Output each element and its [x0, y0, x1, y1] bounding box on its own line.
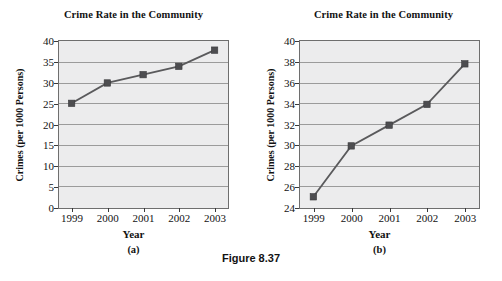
x-tick-mark	[465, 208, 466, 212]
data-series	[59, 41, 227, 207]
y-tick-mark	[54, 208, 58, 209]
y-tick-mark	[295, 83, 299, 84]
y-tick-mark	[295, 62, 299, 63]
y-tick-mark	[54, 166, 58, 167]
x-tick-labels-a: 19992000200120022003	[0, 212, 251, 226]
x-tick-label: 2002	[168, 212, 190, 224]
data-point-marker	[310, 194, 316, 200]
data-series	[300, 41, 478, 207]
data-point-marker	[140, 71, 146, 77]
x-tick-mark	[215, 208, 216, 212]
y-tick-mark	[295, 187, 299, 188]
y-tick-label: 30	[284, 139, 295, 151]
x-tick-mark	[108, 208, 109, 212]
y-tick-mark	[295, 125, 299, 126]
x-tick-label: 2003	[204, 212, 226, 224]
data-point-marker	[176, 63, 182, 69]
x-tick-label: 2001	[379, 212, 401, 224]
x-axis-label-a: Year	[0, 228, 251, 240]
plot-area-b	[299, 40, 480, 209]
y-tick-label: 32	[284, 119, 295, 131]
x-tick-label: 2000	[97, 212, 119, 224]
y-tick-label: 35	[43, 56, 54, 68]
x-tick-mark	[390, 208, 391, 212]
y-axis-label-a: Crimes (per 1000 Persons)	[14, 40, 30, 210]
data-point-marker	[462, 61, 468, 67]
x-tick-label: 2003	[454, 212, 476, 224]
x-tick-label: 2002	[416, 212, 438, 224]
y-tick-mark	[295, 41, 299, 42]
y-tick-mark	[54, 145, 58, 146]
x-tick-label: 1999	[61, 212, 83, 224]
x-tick-mark	[144, 208, 145, 212]
data-point-marker	[68, 100, 74, 106]
y-tick-mark	[54, 41, 58, 42]
figure-caption: Figure 8.37	[0, 252, 502, 264]
y-tick-mark	[295, 208, 299, 209]
y-tick-label: 25	[43, 98, 54, 110]
x-tick-mark	[72, 208, 73, 212]
figure-8-37: Crime Rate in the Community Crimes (per …	[0, 0, 502, 281]
y-tick-label: 40	[43, 35, 54, 47]
y-tick-label: 40	[284, 35, 295, 47]
chart-title-a: Crime Rate in the Community	[0, 9, 251, 20]
y-tick-label: 28	[284, 160, 295, 172]
data-point-marker	[424, 101, 430, 107]
y-tick-label: 26	[284, 181, 295, 193]
y-tick-mark	[295, 166, 299, 167]
chart-panel-b: Crime Rate in the Community Crimes (per …	[251, 0, 502, 248]
y-tick-label: 10	[43, 160, 54, 172]
y-axis-label-b: Crimes (per 1000 Persons)	[265, 40, 281, 210]
chart-title-b: Crime Rate in the Community	[251, 9, 502, 20]
y-tick-label: 34	[284, 98, 295, 110]
y-tick-label: 20	[43, 119, 54, 131]
y-tick-mark	[54, 187, 58, 188]
y-tick-label: 15	[43, 139, 54, 151]
y-tick-mark	[54, 104, 58, 105]
x-tick-mark	[314, 208, 315, 212]
chart-panel-a: Crime Rate in the Community Crimes (per …	[0, 0, 251, 248]
x-tick-label: 1999	[303, 212, 325, 224]
data-point-marker	[211, 47, 217, 53]
x-tick-mark	[352, 208, 353, 212]
x-tick-labels-b: 19992000200120022003	[251, 212, 502, 226]
x-tick-mark	[179, 208, 180, 212]
data-point-marker	[348, 143, 354, 149]
y-tick-label: 36	[284, 77, 295, 89]
x-axis-label-b: Year	[251, 228, 502, 240]
y-tick-mark	[54, 83, 58, 84]
plot-area-a	[58, 40, 229, 209]
y-tick-mark	[54, 125, 58, 126]
y-tick-mark	[295, 104, 299, 105]
y-tick-mark	[54, 62, 58, 63]
y-tick-mark	[295, 145, 299, 146]
y-tick-label: 38	[284, 56, 295, 68]
data-point-marker	[386, 122, 392, 128]
x-tick-label: 2001	[133, 212, 155, 224]
series-line	[313, 64, 464, 197]
x-tick-label: 2000	[341, 212, 363, 224]
data-point-marker	[104, 80, 110, 86]
x-tick-mark	[427, 208, 428, 212]
y-tick-label: 30	[43, 77, 54, 89]
